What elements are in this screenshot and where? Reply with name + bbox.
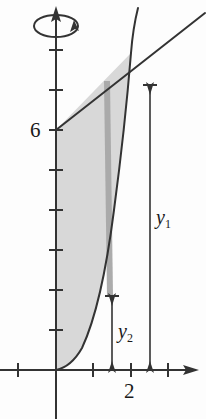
dimension-y1 <box>143 82 157 373</box>
dimension-y2-bottom-arrowhead <box>108 361 116 373</box>
dimension-y1-bottom-arrowhead <box>146 361 154 373</box>
figure-canvas <box>0 0 206 419</box>
dimension-label-y1-base: y <box>156 206 165 228</box>
dimension-label-y2-subscript: 2 <box>127 331 133 345</box>
dimension-y2 <box>105 293 119 373</box>
dimension-y1-top-arrowhead <box>146 82 154 95</box>
dimension-label-y2: y2 <box>118 321 133 341</box>
dimension-label-y1-subscript: 1 <box>165 217 171 231</box>
x-tick-label-2: 2 <box>124 381 135 402</box>
math-figure-solid-of-revolution: 6 2 y1 y2 <box>0 0 206 419</box>
dimension-label-y1: y1 <box>156 207 171 227</box>
dimension-label-y2-base: y <box>118 320 127 342</box>
y-intercept-label: 6 <box>30 120 41 141</box>
